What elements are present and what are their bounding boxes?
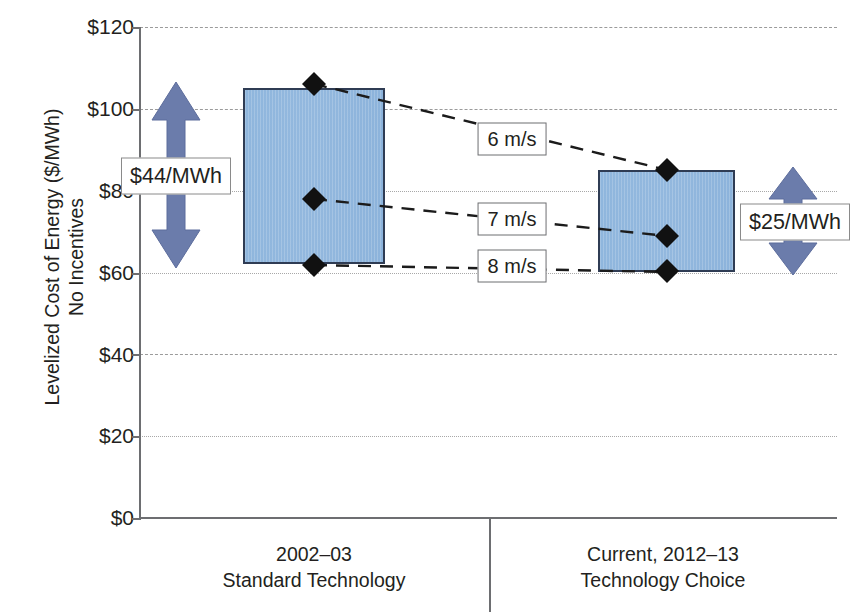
tickmark-40 xyxy=(132,354,141,356)
y-tick-100: $100 xyxy=(48,98,134,119)
tickmark-60 xyxy=(132,273,141,275)
category-label-current-line-1: Current, 2012–13 xyxy=(587,543,739,565)
wind-label-7ms: 7 m/s xyxy=(478,203,547,236)
y-tick-60: $60 xyxy=(48,262,134,283)
category-label-2002-03: 2002–03 Standard Technology xyxy=(223,541,406,593)
gridline-120 xyxy=(140,27,837,28)
range-value-2002-03: $44/MWh xyxy=(121,158,231,195)
bar-current-2012-13[interactable] xyxy=(598,170,735,272)
range-value-current: $25/MWh xyxy=(740,204,850,241)
tickmark-100 xyxy=(132,109,141,111)
wind-label-6ms: 6 m/s xyxy=(478,123,547,156)
y-tick-0: $0 xyxy=(48,507,134,528)
y-tick-20: $20 xyxy=(48,425,134,446)
gridline-40 xyxy=(140,354,837,355)
bar-2002-03[interactable] xyxy=(243,88,385,264)
gridline-20 xyxy=(140,436,837,437)
category-label-current-line-2: Technology Choice xyxy=(581,567,746,593)
y-axis-tick-labels: $120 $100 $80 $60 $40 $20 $0 xyxy=(48,0,134,612)
tickmark-120 xyxy=(132,27,141,29)
category-divider xyxy=(489,519,491,612)
y-tick-120: $120 xyxy=(48,16,134,37)
category-label-2002-03-line-1: 2002–03 xyxy=(276,543,352,565)
category-label-2002-03-line-2: Standard Technology xyxy=(223,567,406,593)
wind-label-8ms: 8 m/s xyxy=(478,250,547,283)
category-label-current: Current, 2012–13 Technology Choice xyxy=(581,541,746,593)
y-tick-40: $40 xyxy=(48,344,134,365)
tickmark-0 xyxy=(132,518,141,520)
tickmark-20 xyxy=(132,436,141,438)
